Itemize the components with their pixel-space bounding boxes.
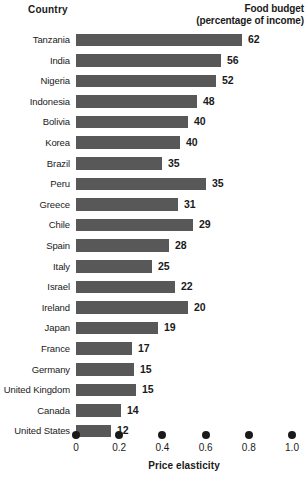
chart-row: Indonesia48 xyxy=(0,93,308,114)
country-label: Israel xyxy=(0,281,70,292)
bar xyxy=(76,178,206,191)
chart-row: Ireland20 xyxy=(0,299,308,320)
bar-value-label: 22 xyxy=(181,280,192,293)
bar-rows: Tanzania62India56Nigeria52Indonesia48Bol… xyxy=(0,31,308,443)
bar-value-label: 35 xyxy=(212,177,223,190)
axis-tick-label: 0 xyxy=(56,442,96,453)
bar xyxy=(76,219,193,232)
bar xyxy=(76,260,152,273)
country-label: Germany xyxy=(0,364,70,375)
axis-tick-dot xyxy=(288,431,296,439)
bar-value-label: 17 xyxy=(138,342,149,355)
bar xyxy=(76,342,132,355)
bar-value-label: 62 xyxy=(248,33,259,46)
bar xyxy=(76,404,121,417)
axis-tick-dot xyxy=(115,431,123,439)
bar-value-label: 19 xyxy=(164,321,175,334)
country-label: Korea xyxy=(0,137,70,148)
bar-value-label: 20 xyxy=(194,301,205,314)
bar xyxy=(76,198,178,211)
chart-row: Chile29 xyxy=(0,216,308,237)
chart-row: Brazil35 xyxy=(0,155,308,176)
country-label: Indonesia xyxy=(0,96,70,107)
axis-tick-dot xyxy=(202,431,210,439)
chart-row: Germany15 xyxy=(0,361,308,382)
country-label: Brazil xyxy=(0,158,70,169)
bar-value-label: 40 xyxy=(186,136,197,149)
chart-row: Canada14 xyxy=(0,402,308,423)
chart-row: France17 xyxy=(0,340,308,361)
bar xyxy=(76,75,216,88)
chart-row: Tanzania62 xyxy=(0,31,308,52)
bar-value-label: 15 xyxy=(140,363,151,376)
bar xyxy=(76,322,158,335)
bar-value-label: 35 xyxy=(168,157,179,170)
bar-value-label: 31 xyxy=(184,198,195,211)
axis-tick-label: 0.8 xyxy=(229,442,269,453)
bar-value-label: 29 xyxy=(199,218,210,231)
chart-row: Greece31 xyxy=(0,196,308,217)
x-axis-title: Price elasticity xyxy=(76,460,292,471)
country-label: Bolivia xyxy=(0,116,70,127)
bar-value-label: 40 xyxy=(194,115,205,128)
bar-value-label: 15 xyxy=(142,383,153,396)
chart-row: United Kingdom15 xyxy=(0,381,308,402)
axis-tick-dot xyxy=(72,431,80,439)
food-budget-header-line2: (percentage of income) xyxy=(124,15,304,27)
country-label: Canada xyxy=(0,405,70,416)
bar-value-label: 56 xyxy=(227,54,238,67)
chart-row: Bolivia40 xyxy=(0,113,308,134)
bar xyxy=(76,116,188,129)
bar xyxy=(76,301,188,314)
country-label: Chile xyxy=(0,219,70,230)
country-label: Spain xyxy=(0,240,70,251)
axis-tick-label: 0.2 xyxy=(99,442,139,453)
axis-tick-label: 0.6 xyxy=(186,442,226,453)
axis-tick-dot xyxy=(245,431,253,439)
country-label: Tanzania xyxy=(0,34,70,45)
bar xyxy=(76,95,197,108)
food-budget-column-header: Food budget (percentage of income) xyxy=(124,3,304,27)
axis-tick-dot xyxy=(158,431,166,439)
bar-value-label: 48 xyxy=(203,95,214,108)
chart-row: India56 xyxy=(0,52,308,73)
country-label: Greece xyxy=(0,199,70,210)
bar xyxy=(76,34,242,47)
x-axis: Price elasticity 00.20.40.60.81.0 xyxy=(0,431,308,479)
country-label: India xyxy=(0,55,70,66)
bar xyxy=(76,363,134,376)
food-budget-header-line1: Food budget xyxy=(124,3,304,15)
bar-value-label: 52 xyxy=(222,74,233,87)
axis-tick-label: 0.4 xyxy=(142,442,182,453)
bar-value-label: 14 xyxy=(127,404,138,417)
country-label: France xyxy=(0,343,70,354)
bar xyxy=(76,136,180,149)
country-label: Japan xyxy=(0,322,70,333)
bar xyxy=(76,281,175,294)
chart-row: Japan19 xyxy=(0,319,308,340)
chart-row: Spain28 xyxy=(0,237,308,258)
bar-value-label: 28 xyxy=(175,239,186,252)
chart-row: Peru35 xyxy=(0,175,308,196)
chart-row: Italy25 xyxy=(0,258,308,279)
bar xyxy=(76,54,221,67)
chart-row: Nigeria52 xyxy=(0,72,308,93)
bar xyxy=(76,157,162,170)
country-label: United Kingdom xyxy=(0,384,70,395)
bar xyxy=(76,384,136,397)
chart-header: Country Food budget (percentage of incom… xyxy=(0,0,308,30)
country-column-header: Country xyxy=(28,4,68,15)
country-label: Peru xyxy=(0,178,70,189)
country-label: Nigeria xyxy=(0,75,70,86)
country-label: Italy xyxy=(0,261,70,272)
chart-row: Israel22 xyxy=(0,278,308,299)
bar-value-label: 25 xyxy=(158,260,169,273)
bar xyxy=(76,239,169,252)
country-label: Ireland xyxy=(0,302,70,313)
axis-tick-label: 1.0 xyxy=(272,442,308,453)
chart-row: Korea40 xyxy=(0,134,308,155)
